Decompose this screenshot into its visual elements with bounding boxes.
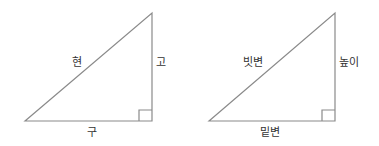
label-base-right: 밑변 [260,127,280,138]
label-hypotenuse-right: 빗변 [243,57,263,68]
label-hypotenuse-left: 현 [72,57,82,68]
right-angle-marker [139,110,152,121]
label-height-left: 고 [156,57,166,68]
triangles-canvas [0,0,379,146]
label-height-right: 높이 [339,57,359,68]
label-base-left: 구 [87,127,97,138]
right-angle-marker [322,110,335,121]
right-triangle-left [25,13,152,121]
right-triangle-right [209,13,335,121]
